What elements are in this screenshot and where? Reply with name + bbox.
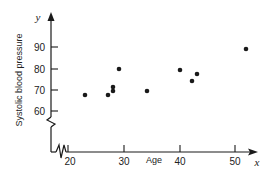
x-tick-label-30: 30 [118,156,130,167]
y-axis [47,16,55,152]
data-points [83,47,249,98]
data-point [145,89,150,94]
data-point [190,79,195,84]
y-ticks [51,47,58,111]
y-tick-label-60: 60 [34,106,46,117]
y-tick-label-70: 70 [34,85,46,96]
x-axis-title: Age [146,155,162,165]
scatter-chart: 90 80 70 60 20 30 40 50 y x Systolic blo… [0,0,276,172]
y-variable-label: y [35,11,41,23]
x-tick-label-50: 50 [229,156,241,167]
data-point [244,47,249,52]
y-axis-title: Systolic blood pressure [14,33,24,126]
x-variable-label: x [254,156,260,168]
data-point [111,85,116,90]
data-point [83,93,88,98]
y-axis-arrow-icon [48,12,55,21]
x-tick-label-20: 20 [64,156,76,167]
x-ticks [68,145,235,152]
data-point [195,72,200,77]
data-point [117,67,122,72]
x-tick-label-40: 40 [174,156,186,167]
data-point [111,89,116,94]
data-point [178,68,183,73]
y-tick-label-90: 90 [34,42,46,53]
data-point [106,93,111,98]
y-tick-label-80: 80 [34,64,46,75]
